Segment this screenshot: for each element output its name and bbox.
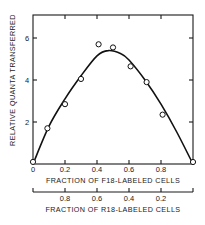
- x-axis-title: FRACTION OF F18-LABELED CELLS: [46, 176, 180, 185]
- y-tick-label: 2: [25, 118, 29, 127]
- x2-tick-label: 0.6: [92, 194, 102, 203]
- x-tick-label: 0.6: [124, 165, 134, 174]
- y-axis-ticks-right: [189, 38, 193, 122]
- data-point: [62, 102, 67, 107]
- energy-transfer-chart: 2 4 6 RELATIVE QUANTA TRANSFERRED 0 0.2 …: [0, 0, 205, 225]
- plot-frame: [33, 15, 193, 164]
- y-axis-ticks-left: [33, 38, 37, 122]
- x-tick-label: 0.8: [156, 165, 166, 174]
- data-point: [96, 42, 101, 47]
- x-axis-ticks-top: [65, 15, 161, 19]
- data-point: [160, 112, 165, 117]
- data-point: [144, 80, 149, 85]
- data-point: [78, 76, 83, 81]
- fitted-curve: [33, 51, 193, 164]
- x2-tick-label: 0.4: [124, 194, 134, 203]
- data-points: [30, 42, 195, 165]
- data-point: [45, 126, 50, 131]
- y-tick-label: 6: [25, 34, 29, 43]
- data-point: [190, 159, 195, 164]
- y-tick-label: 4: [25, 76, 29, 85]
- x-axis-ticks-bottom: [65, 160, 161, 164]
- x2-axis-title: FRACTION OF R18-LABELED CELLS: [45, 205, 180, 214]
- x2-tick-label: 0.2: [156, 194, 166, 203]
- x-tick-label: 0.4: [92, 165, 102, 174]
- data-point: [30, 159, 35, 164]
- x2-tick-label: 0.8: [60, 194, 70, 203]
- data-point: [110, 45, 115, 50]
- y-axis-title: RELATIVE QUANTA TRANSFERRED: [8, 14, 17, 146]
- secondary-x-axis: [33, 188, 193, 192]
- x-tick-label: 0: [31, 165, 35, 174]
- x-tick-label: 0.2: [60, 165, 70, 174]
- data-point: [128, 64, 133, 69]
